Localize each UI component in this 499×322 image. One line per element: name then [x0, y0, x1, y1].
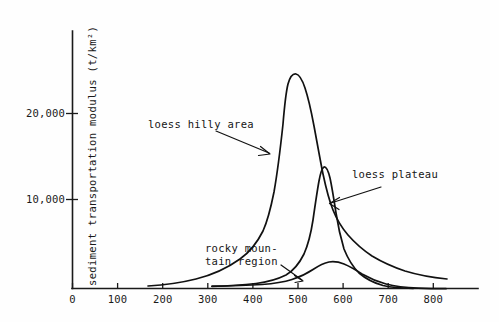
x-tick-label-800: 800	[424, 293, 444, 305]
x-tick-label-100: 100	[108, 293, 128, 305]
x-tick-label-200: 200	[153, 293, 173, 305]
chart-canvas: 20,000 10,000 0 100 200 300 400 500 600 …	[0, 0, 499, 322]
annotation-arrow-loess-hilly-area	[216, 131, 270, 156]
y-axis-title: sediment transportation modulus (t/km²)	[86, 26, 98, 286]
annotation-label-rocky-mountain-region-line1: rocky moun-	[205, 242, 278, 254]
annotation-label-rocky-mountain-region-line2: tain region	[205, 255, 278, 267]
annotation-arrow-loess-plateau	[330, 187, 382, 210]
x-tick-label-700: 700	[378, 293, 398, 305]
x-tick-label-500: 500	[288, 293, 308, 305]
x-tick-label-0: 0	[69, 293, 76, 305]
annotation-label-loess-plateau: loess plateau	[352, 168, 438, 180]
x-tick-label-400: 400	[243, 293, 263, 305]
x-tick-label-600: 600	[333, 293, 353, 305]
x-tick-label-300: 300	[198, 293, 218, 305]
chart-figure: 20,000 10,000 0 100 200 300 400 500 600 …	[0, 0, 499, 322]
y-tick-label-20000: 20,000	[26, 107, 65, 119]
annotation-label-loess-hilly-area: loess hilly area	[148, 118, 254, 130]
y-tick-label-10000: 10,000	[26, 193, 65, 205]
